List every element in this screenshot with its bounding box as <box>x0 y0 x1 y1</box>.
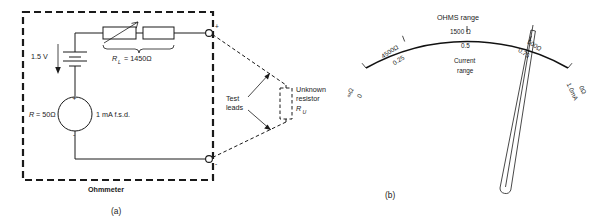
battery-symbol <box>63 52 87 66</box>
tick-label-group-025: 4500Ω 0.25 <box>380 43 406 69</box>
terminal-plus-label: + <box>215 23 219 30</box>
rl-value: = 1450Ω <box>124 54 152 63</box>
unknown-resistor-label-line2: resistor <box>296 94 320 103</box>
current-range-label-line2: range <box>457 67 474 75</box>
meter-fsd-label: 1 mA f.s.d. <box>96 110 130 119</box>
tick-label-group-0: ∞Ω 0 <box>344 87 363 103</box>
wire-meter-to-minus-terminal <box>75 131 206 159</box>
meter-movement-symbol <box>58 97 92 131</box>
test-leads-label-line1: Test <box>226 94 239 103</box>
terminal-plus[interactable] <box>206 30 213 37</box>
unknown-resistor-body <box>280 88 292 119</box>
ohms-label-0: ∞Ω <box>344 87 354 99</box>
panel-b-meter-scale: OHMS range ∞Ω 0 4500Ω 0.25 1500 Ω 0.5 50… <box>344 13 589 200</box>
voltage-arrowhead <box>55 67 61 74</box>
wire-battery-to-rl <box>75 33 103 52</box>
tick-025 <box>403 36 405 42</box>
current-label-0: 0 <box>355 92 363 99</box>
rl-label-subscript: L <box>118 59 121 65</box>
unknown-resistor-label-line1: Unknown <box>296 85 326 94</box>
fixed-resistor-body <box>143 27 174 39</box>
tick-label-group-10: 0Ω 1.0mA <box>566 77 590 102</box>
meter-resistance-value: = 50Ω <box>36 110 56 119</box>
meter-resistance-label: R <box>29 110 34 119</box>
meter-plus-sign: + <box>73 95 77 102</box>
ohms-label-05: 1500 Ω <box>450 28 471 35</box>
rl-brace <box>103 45 174 53</box>
rl-label: R <box>112 54 117 63</box>
panel-a-circuit: R L = 1450Ω 1.5 V + - R = 50Ω 1 mA f.s.d… <box>23 12 326 216</box>
test-lead-upper <box>213 35 287 86</box>
meter-resistance-label-group: R = 50Ω <box>29 110 56 119</box>
ohms-label-10: 0Ω <box>578 85 588 96</box>
terminal-minus-label: - <box>215 160 217 167</box>
current-label-10: 1.0mA <box>566 82 580 102</box>
battery-voltage-label: 1.5 V <box>31 52 48 61</box>
test-lead-lower <box>213 122 287 158</box>
test-leads-label-line2: leads <box>226 103 244 112</box>
tick-10 <box>568 63 572 68</box>
unknown-resistor-symbol-subscript: U <box>303 109 307 115</box>
figure-ohmmeter: R L = 1450Ω 1.5 V + - R = 50Ω 1 mA f.s.d… <box>0 0 603 223</box>
terminal-minus[interactable] <box>206 156 213 163</box>
ohmmeter-enclosure-label: Ohmmeter <box>88 185 124 194</box>
tick-0 <box>362 63 366 68</box>
current-label-075: 0.75 <box>517 46 532 59</box>
rl-label-group: R L = 1450Ω <box>112 54 152 65</box>
tick-label-group-05: 1500 Ω 0.5 <box>450 28 471 49</box>
caption-b: (b) <box>385 190 395 200</box>
unknown-resistor-symbol: R <box>296 104 301 113</box>
caption-a: (a) <box>111 206 121 216</box>
current-range-label-line1: Current <box>454 57 476 64</box>
current-label-05: 0.5 <box>461 42 470 49</box>
scale-title: OHMS range <box>437 13 479 22</box>
